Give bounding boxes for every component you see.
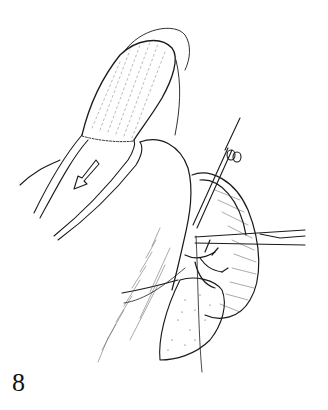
right-organ-hatching bbox=[215, 190, 256, 312]
vessels bbox=[185, 240, 228, 288]
clamp-horizontal bbox=[195, 230, 305, 245]
organ-hatching bbox=[98, 228, 170, 362]
tissue-mass bbox=[160, 278, 225, 360]
tube-halo bbox=[124, 28, 190, 135]
organ-outline bbox=[122, 140, 191, 293]
bowel-texture bbox=[92, 42, 165, 138]
suture-thread bbox=[196, 236, 202, 372]
figure-number: 8 bbox=[12, 370, 25, 396]
bowel-segment bbox=[82, 41, 175, 142]
right-organ bbox=[192, 173, 259, 318]
sheath bbox=[20, 135, 142, 240]
surgical-illustration bbox=[0, 0, 328, 410]
arrow-icon bbox=[74, 160, 99, 189]
mass-stipple bbox=[167, 294, 210, 350]
